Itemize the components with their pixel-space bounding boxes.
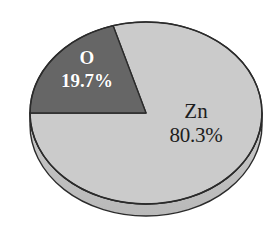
pie-slice-label-o-name: O xyxy=(44,48,130,68)
pie-chart-figure: O 19.7% Zn 80.3% xyxy=(0,0,279,235)
pie-slice-label-o-value: 19.7% xyxy=(44,71,130,91)
pie-slice-label-zn-name: Zn xyxy=(153,101,239,123)
pie-slice-label-zn-value: 80.3% xyxy=(153,125,239,147)
pie-slice-label-o: O 19.7% xyxy=(44,48,130,91)
chart-plot-area: O 19.7% Zn 80.3% xyxy=(0,0,279,235)
pie-slice-label-zn: Zn 80.3% xyxy=(153,101,239,147)
